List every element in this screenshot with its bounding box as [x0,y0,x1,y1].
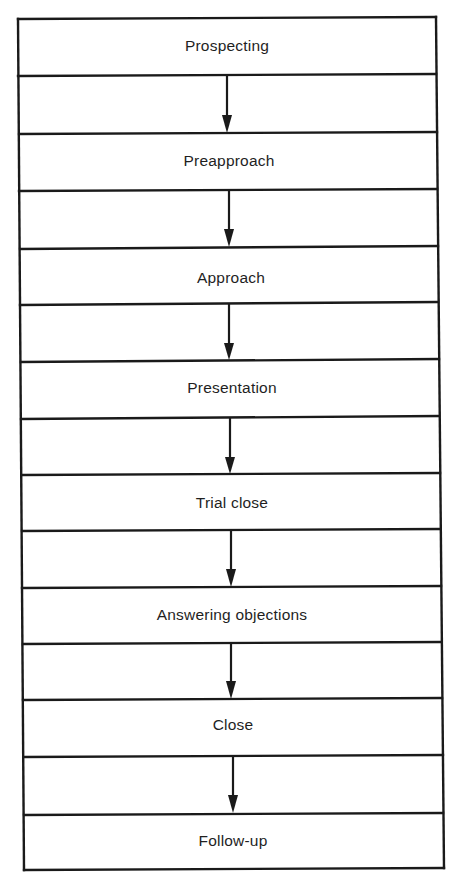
step-labels: Prospecting Preapproach Approach Present… [157,37,308,849]
sales-process-diagram: Prospecting Preapproach Approach Present… [0,0,463,887]
step-approach: Approach [197,269,265,286]
step-preapproach: Preapproach [184,152,275,169]
step-close: Close [213,716,254,733]
divider [24,813,443,815]
arrow-down-icon [228,756,238,813]
arrow-down-icon [224,190,234,247]
divider [23,698,442,700]
arrow-down-icon [226,530,236,587]
connector-arrows [222,75,238,813]
frame-right-border [436,17,444,868]
frame-bottom-border [24,868,444,870]
arrow-down-icon [225,418,235,474]
step-answering-objections: Answering objections [157,606,308,623]
step-follow-up: Follow-up [199,832,268,849]
step-trial-close: Trial close [196,494,268,511]
step-prospecting: Prospecting [185,37,269,54]
divider [19,132,437,134]
arrow-down-icon [226,643,236,699]
arrow-down-icon [224,304,234,360]
divider [21,359,439,362]
step-presentation: Presentation [187,379,276,396]
divider [22,473,440,475]
divider [22,586,441,588]
frame-left-border [18,19,24,870]
frame-top-border [18,17,436,19]
arrow-down-icon [222,75,232,133]
